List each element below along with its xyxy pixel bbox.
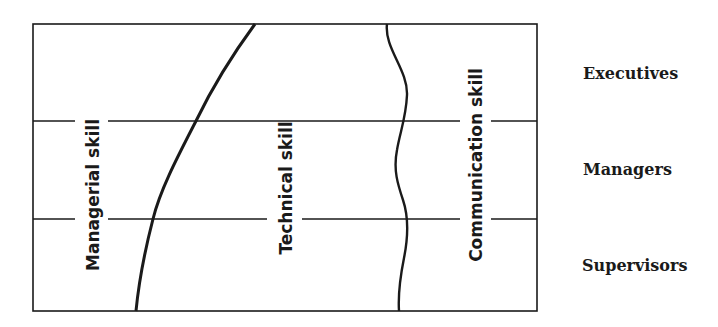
label-communication-skill: Communication skill — [466, 68, 486, 262]
level-label-executives: Executives — [583, 64, 678, 83]
level-label-supervisors: Supervisors — [582, 256, 687, 275]
label-technical-skill: Technical skill — [276, 121, 296, 254]
technical-communication-boundary — [387, 24, 408, 311]
label-managerial-skill: Managerial skill — [83, 119, 103, 271]
managerial-technical-boundary — [136, 24, 255, 311]
level-label-managers: Managers — [583, 160, 672, 179]
